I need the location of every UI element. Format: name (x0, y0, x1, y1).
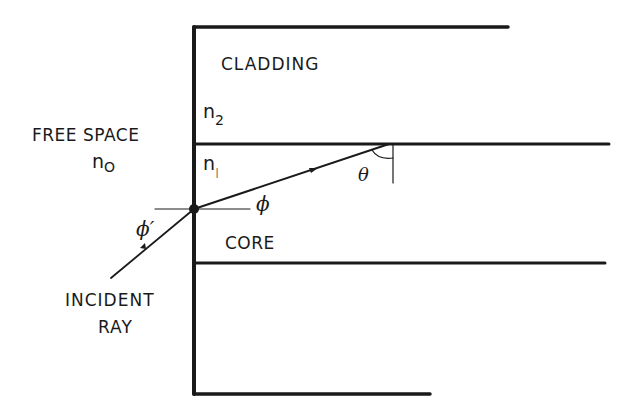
phi-prime-label: ϕ′ (136, 217, 155, 241)
n2-label: n2 (203, 100, 224, 128)
phi-label: ϕ (256, 192, 270, 216)
incident-label: INCIDENT (65, 290, 155, 310)
theta-angle-arc (372, 150, 393, 158)
entry-point-dot (189, 204, 199, 214)
n1-label: nI (203, 152, 219, 181)
core-label: CORE (225, 233, 275, 253)
ray-label: RAY (98, 317, 133, 337)
incident-ray-arrowhead (140, 243, 146, 249)
fiber-diagram: CLADDING CORE FREE SPACE n2 nI nO ϕ′ ϕ θ… (0, 0, 637, 420)
cladding-label: CLADDING (221, 54, 319, 74)
free-space-label: FREE SPACE (32, 125, 139, 145)
n0-label: nO (92, 150, 115, 175)
theta-label: θ (358, 164, 369, 185)
refracted-ray-arrowhead (309, 168, 318, 173)
